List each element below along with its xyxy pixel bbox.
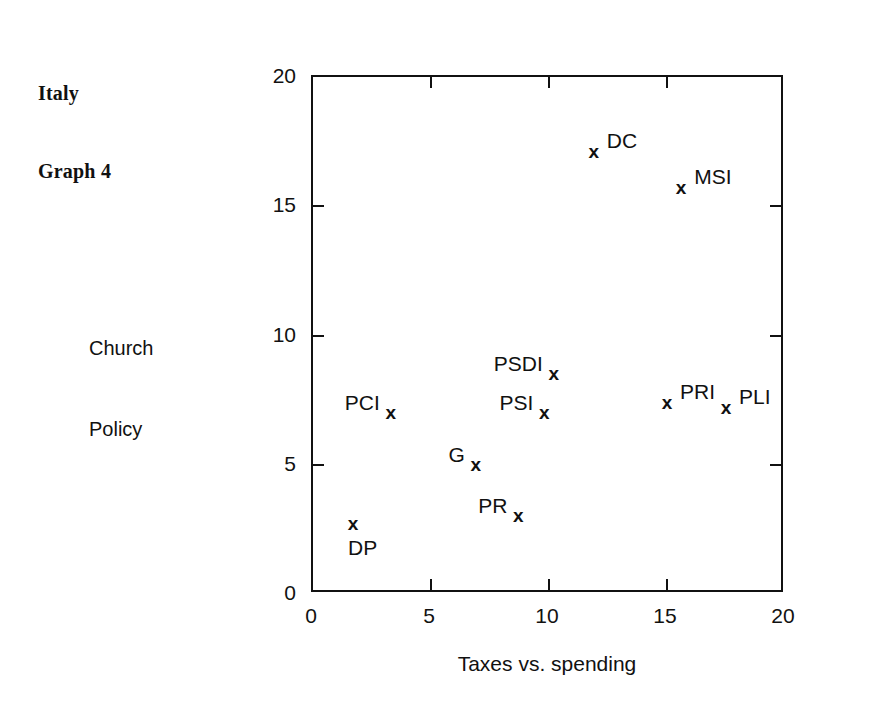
y-axis-tick-label: 0: [236, 582, 296, 603]
data-point-label: PR: [478, 495, 507, 516]
x-axis-tick-label: 5: [399, 605, 459, 626]
x-axis-tick: [548, 77, 550, 88]
caption-line-country: Italy: [38, 80, 111, 106]
data-point-label: PCI: [345, 392, 380, 413]
data-point-label: PSI: [499, 392, 533, 413]
x-axis-tick: [666, 579, 668, 590]
x-axis-tick-label: 20: [753, 605, 813, 626]
x-axis-tick-label: 15: [635, 605, 695, 626]
data-point-marker-x-icon: x: [720, 397, 732, 419]
y-axis-tick: [313, 205, 324, 207]
data-point-marker-x-icon: x: [675, 177, 687, 199]
x-axis-tick: [548, 579, 550, 590]
data-point-label: PLI: [739, 386, 771, 407]
data-point-marker-x-icon: x: [385, 402, 397, 424]
y-axis-tick: [313, 335, 324, 337]
x-axis-tick: [430, 77, 432, 88]
y-axis-tick: [313, 464, 324, 466]
data-point-marker-x-icon: x: [661, 392, 673, 414]
y-axis-tick-label: 20: [236, 65, 296, 86]
y-axis-tick-label: 15: [236, 194, 296, 215]
data-point-marker-x-icon: x: [470, 454, 482, 476]
data-point-marker-x-icon: x: [588, 141, 600, 163]
figure-caption: Italy Graph 4: [38, 28, 111, 210]
data-point-marker-x-icon: x: [347, 513, 359, 535]
y-axis-title: Church Policy: [89, 281, 153, 470]
y-axis-tick: [770, 464, 781, 466]
data-point-marker-x-icon: x: [538, 402, 550, 424]
data-point-label: MSI: [694, 166, 731, 187]
data-point-label: DC: [607, 130, 637, 151]
x-axis-tick-label: 0: [281, 605, 341, 626]
x-axis-tick-label: 10: [517, 605, 577, 626]
data-point-label: PSDI: [494, 353, 543, 374]
data-point-marker-x-icon: x: [512, 505, 524, 527]
y-axis-tick-label: 5: [236, 453, 296, 474]
y-axis-tick: [770, 205, 781, 207]
x-axis-title: Taxes vs. spending: [311, 652, 783, 676]
data-point-label: DP: [348, 537, 377, 558]
x-axis-tick: [666, 77, 668, 88]
data-point-label: G: [448, 444, 464, 465]
y-axis-title-line-1: Church: [89, 335, 153, 362]
data-point-label: PRI: [680, 381, 715, 402]
data-point-marker-x-icon: x: [548, 363, 560, 385]
y-axis-title-line-2: Policy: [89, 416, 153, 443]
y-axis-tick: [770, 335, 781, 337]
y-axis-tick-label: 10: [236, 324, 296, 345]
plot-area: xDCxMSIxPSDIxPSIxPRIxPLIxPCIxGxPRxDP: [311, 75, 783, 592]
caption-line-graph-number: Graph 4: [38, 158, 111, 184]
x-axis-tick: [430, 579, 432, 590]
